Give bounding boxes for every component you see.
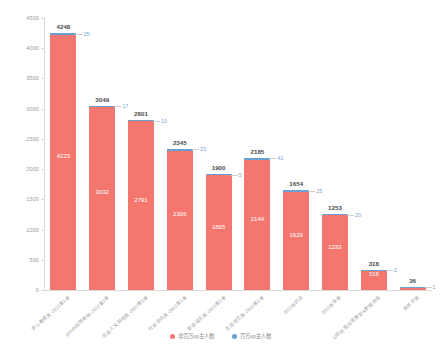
bar-stack[interactable] [128,120,154,290]
bar-segment-million[interactable] [244,158,270,160]
legend-item[interactable]: 非百万up主人数 [170,332,214,340]
x-axis-label-text: 社会资讯类-2022第1季 [147,294,188,332]
bar-value-label-million: 17 [114,103,128,109]
bar-stack[interactable] [89,106,115,290]
y-tick-label: 0 [36,287,44,293]
bar-segment-non-million[interactable] [206,175,232,290]
leader-line [114,106,121,107]
bar-stack[interactable] [400,287,426,290]
bar-value-label-million: 1 [425,284,436,290]
bar-value-label-non-million: 4223 [57,153,70,159]
bar-group[interactable]: 3183162 [361,18,387,290]
x-axis-label-text: 学习教育类-2022第1季 [30,294,71,332]
y-tick-label: 1000 [26,227,44,233]
bar-value-label-million: 2 [386,267,397,273]
legend-item[interactable]: 百万up主人数 [232,332,271,340]
leader-line [347,215,354,216]
bar-segment-million[interactable] [50,33,76,35]
legend-color-swatch-icon [232,334,237,339]
bar-stack[interactable] [50,33,76,290]
bar-value-label-million: 33 [192,146,206,152]
bar-total-label: 36 [409,277,416,284]
bar-total-label: 2345 [173,139,187,146]
x-axis [44,290,432,291]
x-axis-label-text: 影视娱乐类-2022第1季 [185,294,226,332]
leader-line [269,158,276,159]
y-tick-label: 4000 [26,45,44,51]
bar-value-label-non-million: 316 [369,271,379,277]
bar-value-label-non-million: 1895 [212,224,225,230]
bar-value-label-million: 10 [153,118,167,124]
bar-value-label-non-million: 2144 [251,216,264,222]
bar-segment-million[interactable] [400,287,426,288]
bar-group[interactable]: 1654162925 [283,18,309,290]
legend-label: 百万up主人数 [240,332,271,340]
x-axis-label-text: 2022年四月 [281,294,304,316]
bar-value-label-million: 25 [308,188,322,194]
bar-value-label-non-million: 1629 [290,232,303,238]
bar-group[interactable]: 2185214441 [244,18,270,290]
x-axis-label-text: 其他分类 [402,294,421,312]
bar-segment-million[interactable] [167,149,193,151]
bar-segment-million[interactable] [128,120,154,121]
y-tick-label: 2500 [26,136,44,142]
bar-total-label: 2185 [251,148,265,155]
bar-segment-non-million[interactable] [244,160,270,290]
bar-stack[interactable] [206,174,232,290]
x-axis-label-text: 2022年末季 [320,294,343,316]
bar-group[interactable]: 4248422325 [50,18,76,290]
bar-total-label: 4248 [57,23,71,30]
leader-line [192,149,199,150]
legend-color-swatch-icon [170,334,175,339]
bar-value-label-million: 25 [75,31,89,37]
bar-stack[interactable] [167,149,193,290]
bar-value-label-million: 5 [231,172,242,178]
stacked-bar-chart: 050010001500200025003000350040004500 424… [0,0,441,348]
bar-segment-non-million[interactable] [50,35,76,290]
bar-segment-non-million[interactable] [400,288,426,290]
bar-value-label-non-million: 2306 [173,211,186,217]
leader-line [425,287,432,288]
bar-segment-non-million[interactable] [322,215,348,290]
leader-line [308,191,315,192]
bar-group[interactable]: 2801279110 [128,18,154,290]
bar-value-million-text: 5 [239,172,242,178]
y-tick-label: 1500 [26,196,44,202]
bar-group[interactable]: 361 [400,18,426,290]
bar-value-label-non-million: 3032 [96,189,109,195]
bar-value-million-text: 2 [394,267,397,273]
bar-group[interactable]: 3049303217 [89,18,115,290]
bar-segment-million[interactable] [206,174,232,175]
y-tick-label: 3500 [26,75,44,81]
bar-segment-million[interactable] [89,106,115,107]
bar-total-label: 1654 [289,180,303,187]
bar-stack[interactable] [283,190,309,290]
bar-value-million-text: 1 [433,284,436,290]
leader-line [231,175,238,176]
bar-total-label: 3049 [95,96,109,103]
bar-segment-non-million[interactable] [89,107,115,290]
bar-segment-non-million[interactable] [283,192,309,290]
y-tick-label: 2000 [26,166,44,172]
bar-value-label-non-million: 1233 [328,244,341,250]
bar-value-label-million: 20 [347,212,361,218]
bar-stack[interactable] [244,158,270,290]
leader-line [386,270,393,271]
bar-group[interactable]: 1253123320 [322,18,348,290]
bar-value-label-non-million: 2791 [134,197,147,203]
legend-label: 非百万up主人数 [178,332,214,340]
x-axis-label-text: 生活综艺类-2022第1季 [224,294,265,332]
bar-segment-non-million[interactable] [128,121,154,290]
bar-total-label: 2801 [134,110,148,117]
y-tick-label: 500 [30,257,44,263]
bar-group[interactable]: 190018955 [206,18,232,290]
bar-total-label: 1900 [212,164,226,171]
bar-segment-million[interactable] [283,190,309,192]
bar-group[interactable]: 2345230633 [167,18,193,290]
bar-series-container: 4248422325304930321728012791102345230633… [44,18,432,290]
bar-stack[interactable] [322,214,348,290]
plot-area: 050010001500200025003000350040004500 424… [44,18,432,290]
leader-line [153,121,160,122]
bar-segment-million[interactable] [322,214,348,215]
bar-segment-non-million[interactable] [167,151,193,290]
